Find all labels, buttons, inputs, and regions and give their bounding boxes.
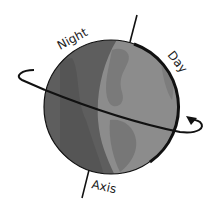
axis-line-bottom [82, 170, 89, 198]
diagram-canvas: Night Day Axis [0, 0, 216, 209]
earth-rotation-diagram: Night Day Axis [0, 0, 216, 209]
rotation-ring-back [19, 70, 45, 90]
axis-label: Axis [90, 177, 117, 196]
globe-icon [40, 35, 185, 180]
axis-line-top [130, 15, 137, 42]
